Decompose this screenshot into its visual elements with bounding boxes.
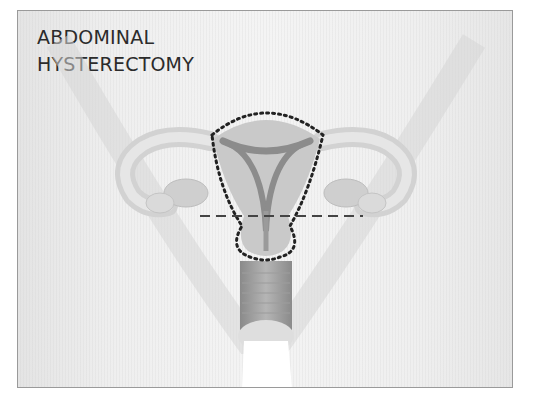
illustration-frame: ABDOMINAL HYSTERECTOMY bbox=[17, 10, 513, 388]
vagina bbox=[238, 261, 294, 388]
uterus bbox=[213, 120, 320, 256]
anatomy-illustration bbox=[18, 11, 513, 388]
